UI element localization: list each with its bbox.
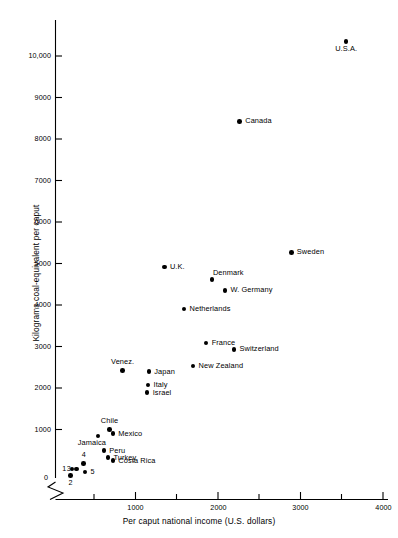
data-point[interactable] <box>120 368 125 373</box>
data-point-label: Costa Rica <box>118 457 155 465</box>
plot-axes <box>0 0 398 538</box>
data-point[interactable] <box>289 250 294 255</box>
data-point-label: Sweden <box>297 248 324 256</box>
data-point-label: W. Germany <box>230 286 272 294</box>
origin-label: 0 <box>44 474 48 481</box>
data-point[interactable] <box>111 431 116 436</box>
data-point[interactable] <box>237 119 242 124</box>
scatter-plot-figure: 10,000 9000 8000 7000 6000 5000 4000 300… <box>0 0 398 538</box>
data-point-label: France <box>212 339 236 347</box>
data-point[interactable] <box>162 265 167 270</box>
x-tick-label-1000: 1000 <box>115 504 156 511</box>
y-tick-label-9000: 9000 <box>12 94 51 101</box>
data-point[interactable] <box>102 448 107 453</box>
data-point-label: Canada <box>245 118 272 126</box>
data-point[interactable] <box>106 455 111 460</box>
y-tick-label-2000: 2000 <box>12 384 51 391</box>
data-point[interactable] <box>111 458 116 463</box>
data-point-label: 5 <box>90 468 94 476</box>
data-point-label: Mexico <box>118 430 142 438</box>
data-point[interactable] <box>147 369 152 374</box>
y-tick-label-1000: 1000 <box>12 426 51 433</box>
data-point-label: Chile <box>101 418 118 426</box>
data-point-label: New Zealand <box>199 362 244 370</box>
y-tick-label-10000: 10,000 <box>12 52 51 59</box>
data-point[interactable] <box>74 467 79 472</box>
data-point-label: U.S.A. <box>335 45 357 53</box>
data-point-label: 4 <box>82 452 86 460</box>
x-tick-label-2000: 2000 <box>198 504 239 511</box>
x-axis-title: Per caput national income (U.S. dollars) <box>0 516 398 526</box>
y-tick-marks <box>56 56 63 430</box>
data-point-label: 1 <box>62 465 66 473</box>
data-point-label: Venez. <box>111 359 134 367</box>
data-point[interactable] <box>210 277 215 282</box>
axis-break-zigzag <box>48 482 63 500</box>
data-point-label: Israel <box>153 389 172 397</box>
data-point-label: Switzerland <box>239 345 278 353</box>
x-tick-label-3000: 3000 <box>280 504 321 511</box>
data-point-label: U.K. <box>170 263 185 271</box>
y-tick-label-8000: 8000 <box>12 135 51 142</box>
data-point-label: 2 <box>69 479 73 487</box>
data-point-label: Netherlands <box>190 305 231 313</box>
data-point-label: Denmark <box>213 269 244 277</box>
data-point[interactable] <box>81 461 86 466</box>
data-point[interactable] <box>223 288 228 293</box>
y-axis-title: Kilograms coal-equivalent per caput <box>31 173 41 373</box>
data-point[interactable] <box>232 347 237 352</box>
data-point-label: 3 <box>67 465 71 473</box>
x-tick-label-4000: 4000 <box>363 504 398 511</box>
data-point-label: Japan <box>154 368 175 376</box>
data-point-label: Jamaica <box>78 439 106 447</box>
